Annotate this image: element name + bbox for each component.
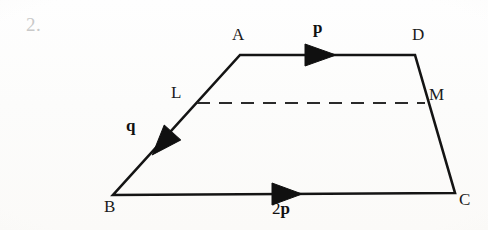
- vertex-label-c: C: [459, 191, 470, 208]
- vector-label-2p: 2p: [272, 200, 290, 217]
- vertex-label-b: B: [104, 198, 115, 215]
- vector-2p-coefficient: 2: [272, 199, 281, 218]
- arrowhead-p: [305, 44, 336, 66]
- vector-label-q: q: [126, 117, 135, 134]
- arrowhead-q: [144, 125, 180, 162]
- midpoint-label-m: M: [429, 86, 444, 103]
- midpoint-label-l: L: [171, 84, 181, 101]
- figure-canvas: 2. A D C B L M p q 2p: [0, 0, 488, 230]
- question-number: 2.: [26, 14, 41, 36]
- vector-2p-symbol: p: [281, 199, 290, 218]
- vertex-label-a: A: [232, 26, 244, 43]
- vector-p-symbol: p: [313, 18, 322, 37]
- vector-label-p: p: [313, 19, 322, 36]
- vertex-label-d: D: [412, 26, 424, 43]
- vector-q-symbol: q: [126, 116, 135, 135]
